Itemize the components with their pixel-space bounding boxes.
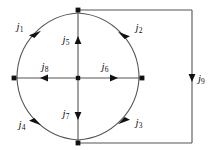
diagram-canvas: j1 j2 j3 j4 j5 j6 j7 j8 j9: [0, 0, 218, 150]
current-diagram: j1 j2 j3 j4 j5 j6 j7 j8 j9: [0, 0, 218, 150]
node-center: [76, 76, 80, 80]
arrowhead-j7: [75, 112, 82, 120]
label-j6: j6: [100, 60, 109, 74]
arrowhead-j4: [29, 117, 41, 129]
label-j1: j1: [15, 20, 24, 34]
label-j8-subscript: 8: [45, 65, 49, 74]
label-j7: j7: [61, 107, 70, 121]
node-top: [76, 8, 81, 13]
node-right: [140, 76, 145, 81]
label-j5-subscript: 5: [66, 38, 70, 47]
arrowhead-j5: [75, 36, 82, 44]
label-j7-subscript: 7: [66, 112, 70, 121]
label-j2: j2: [134, 21, 143, 35]
arrowhead-j8: [40, 75, 48, 82]
label-j8: j8: [40, 60, 49, 74]
label-j5: j5: [61, 33, 70, 47]
arrowhead-j9: [189, 74, 196, 82]
node-bottom: [76, 141, 81, 146]
arc-top-right: [78, 13, 139, 78]
label-j9-subscript: 9: [201, 77, 205, 86]
label-j3-subscript: 3: [139, 121, 143, 130]
label-j4-subscript: 4: [22, 123, 26, 132]
label-j9: j9: [196, 72, 205, 86]
label-j1-subscript: 1: [20, 25, 24, 34]
label-j3: j3: [134, 116, 143, 130]
arrowhead-j6: [110, 75, 118, 82]
arrowhead-j2: [118, 29, 130, 41]
arc-bottom-right: [78, 78, 139, 140]
label-j6-subscript: 6: [105, 65, 109, 74]
arc-bottom-left: [17, 78, 78, 140]
label-j2-subscript: 2: [139, 26, 143, 35]
node-left: [12, 76, 17, 81]
label-j4: j4: [17, 118, 26, 132]
